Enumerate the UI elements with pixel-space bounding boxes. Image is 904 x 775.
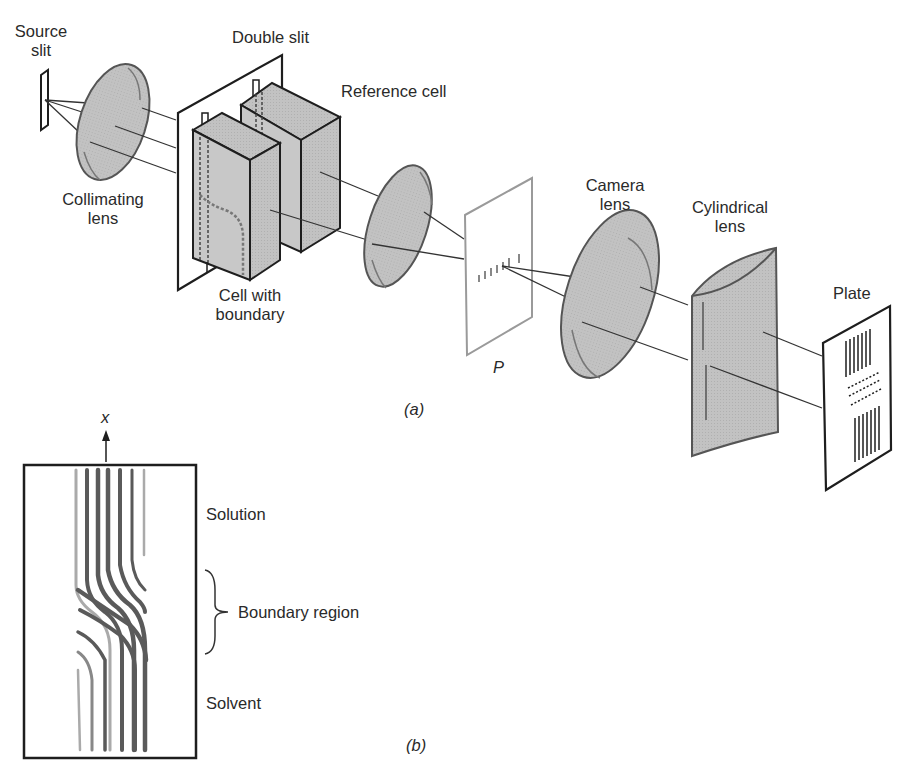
label-line: lens (575, 195, 655, 214)
photographic-plate (823, 306, 891, 490)
label-line: Camera (575, 176, 655, 195)
label-line: lens (680, 217, 780, 236)
caption-b: (b) (406, 736, 426, 755)
caption-a: (a) (404, 400, 424, 419)
boundary-brace (205, 570, 228, 654)
label-line: Cell with (200, 286, 300, 305)
camera-lens (542, 198, 688, 390)
interferometer-diagram (0, 0, 904, 775)
collimating-lens (63, 55, 176, 190)
label-collimating-lens: Collimating lens (48, 190, 158, 228)
axis-label-x: x (101, 408, 109, 427)
focusing-lens (351, 157, 464, 295)
label-line: lens (48, 209, 158, 228)
label-cell-with-boundary: Cell with boundary (200, 286, 300, 324)
label-cylindrical-lens: Cylindrical lens (680, 198, 780, 236)
cylindrical-lens (692, 248, 822, 456)
cell-with-boundary (193, 113, 280, 280)
label-double-slit: Double slit (232, 28, 309, 47)
label-solvent: Solvent (206, 694, 261, 713)
label-line: Source (10, 22, 72, 41)
label-line: Cylindrical (680, 198, 780, 217)
label-line: boundary (200, 305, 300, 324)
label-plane-p: P (493, 358, 504, 377)
label-line: Collimating (48, 190, 158, 209)
label-line: slit (10, 41, 72, 60)
label-plate: Plate (833, 284, 871, 303)
label-source-slit: Source slit (10, 22, 72, 60)
label-reference-cell: Reference cell (341, 82, 446, 101)
label-solution: Solution (206, 505, 266, 524)
label-camera-lens: Camera lens (575, 176, 655, 214)
fringe-pattern-frame (24, 430, 196, 758)
plane-p (465, 178, 575, 355)
label-boundary-region: Boundary region (238, 603, 359, 622)
